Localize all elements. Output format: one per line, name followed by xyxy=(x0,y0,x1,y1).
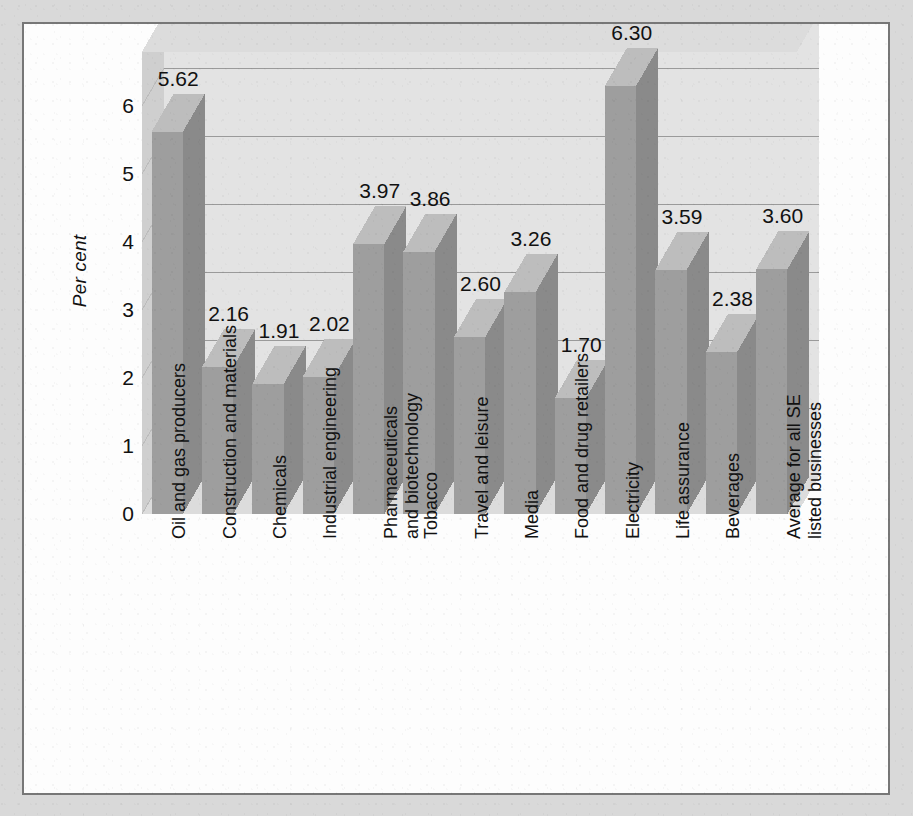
y-axis-tick-3: 3 xyxy=(108,299,134,320)
x-axis-category-label: Electricity xyxy=(623,462,644,539)
bar-chart: Per cent 0123456 5.622.161.912.023.973.8… xyxy=(24,24,888,793)
bar-value-label: 5.62 xyxy=(143,68,213,89)
bar-value-label: 6.30 xyxy=(597,22,667,43)
y-axis-tick-0: 0 xyxy=(108,503,134,524)
bar-value-label: 3.60 xyxy=(748,205,818,226)
bar-value-label: 3.59 xyxy=(647,206,717,227)
x-axis-category-label: Travel and leisure xyxy=(472,397,493,539)
x-axis-category-label-line: Media xyxy=(522,490,543,539)
x-axis-category-label: Beverages xyxy=(723,453,744,539)
x-axis-category-label-line: Tobacco xyxy=(421,472,442,539)
x-axis-category-label-line: and biotechnology xyxy=(402,393,423,539)
x-axis-category-label-line: Beverages xyxy=(723,453,744,539)
x-axis-category-label-line: Oil and gas producers xyxy=(169,363,190,539)
bar-value-label: 3.26 xyxy=(496,228,566,249)
bar-value-label: 3.86 xyxy=(395,188,465,209)
x-axis-category-label-line: Construction and materials xyxy=(220,325,241,539)
x-axis-category-label-line: Travel and leisure xyxy=(472,397,493,539)
x-axis-category-label: Food and drug retailers xyxy=(572,353,593,539)
x-axis-category-label: Chemicals xyxy=(270,455,291,539)
y-axis-tick-1: 1 xyxy=(108,435,134,456)
x-axis-category-label: Oil and gas producers xyxy=(169,363,190,539)
x-axis-category-label-line: Electricity xyxy=(623,462,644,539)
x-axis-category-label-line: Food and drug retailers xyxy=(572,353,593,539)
x-axis-category-label-line: Average for all SE xyxy=(784,394,805,539)
y-axis-tick-6: 6 xyxy=(108,95,134,116)
chart-3d-canvas xyxy=(24,24,892,797)
bar-value-label: 2.38 xyxy=(697,288,767,309)
bar-column xyxy=(605,48,658,514)
x-axis-category-label: Media xyxy=(522,490,543,539)
x-axis-category-label-line: Industrial engineering xyxy=(320,367,341,539)
document-page: Per cent 0123456 5.622.161.912.023.973.8… xyxy=(22,22,890,795)
x-axis-category-label-line: listed businesses xyxy=(805,394,826,539)
y-axis-tick-5: 5 xyxy=(108,163,134,184)
x-axis-category-label: Pharmaceuticalsand biotechnology xyxy=(381,393,423,539)
y-axis-title: Per cent xyxy=(69,211,91,331)
x-axis-category-label-line: Pharmaceuticals xyxy=(381,393,402,539)
x-axis-category-label: Tobacco xyxy=(421,472,442,539)
x-axis-category-label: Construction and materials xyxy=(220,325,241,539)
x-axis-category-label: Average for all SElisted businesses xyxy=(784,394,826,539)
x-axis-category-label-line: Chemicals xyxy=(270,455,291,539)
bar-value-label: 2.60 xyxy=(446,273,516,294)
y-axis-tick-2: 2 xyxy=(108,367,134,388)
x-axis-category-label: Industrial engineering xyxy=(320,367,341,539)
x-axis-category-label: Life assurance xyxy=(673,422,694,539)
bar-value-label: 2.02 xyxy=(294,313,364,334)
x-axis-category-label-line: Life assurance xyxy=(673,422,694,539)
y-axis-tick-4: 4 xyxy=(108,231,134,252)
